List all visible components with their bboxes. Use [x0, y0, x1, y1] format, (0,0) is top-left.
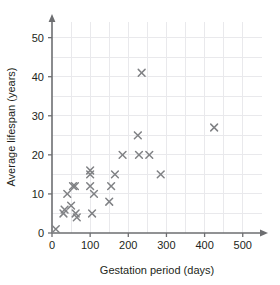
y-axis-ticks: 01020304050 [32, 32, 52, 239]
y-tick-label: 20 [32, 149, 44, 161]
y-axis-arrowhead [49, 14, 56, 22]
y-tick-label: 50 [32, 32, 44, 44]
x-tick-label: 400 [195, 239, 213, 251]
axes [49, 14, 268, 236]
gridlines [52, 22, 262, 233]
scatter-chart: 01020304050 0100200300400500 Gestation p… [0, 0, 280, 285]
x-axis-title: Gestation period (days) [100, 264, 214, 276]
x-tick-label: 0 [49, 239, 55, 251]
data-point-marker [211, 124, 218, 131]
y-tick-label: 30 [32, 110, 44, 122]
x-tick-label: 500 [234, 239, 252, 251]
y-tick-label: 40 [32, 71, 44, 83]
plot-area: 01020304050 0100200300400500 Gestation p… [0, 0, 280, 285]
y-tick-label: 0 [38, 227, 44, 239]
x-axis-ticks: 0100200300400500 [49, 233, 252, 251]
x-tick-label: 100 [81, 239, 99, 251]
data-point-marker [138, 69, 145, 76]
y-tick-label: 10 [32, 188, 44, 200]
data-points [52, 69, 217, 232]
x-axis-arrowhead [260, 230, 268, 237]
y-axis-title: Average lifespan (years) [5, 67, 17, 186]
x-tick-label: 300 [157, 239, 175, 251]
data-point-marker [52, 226, 59, 233]
x-tick-label: 200 [119, 239, 137, 251]
